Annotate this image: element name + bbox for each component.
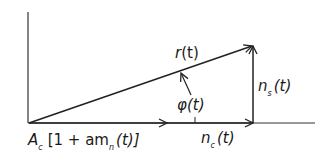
resultant-label: r(t): [175, 44, 199, 62]
signal-label: Ac[1 + amn(t)]: [27, 131, 140, 152]
phasor-diagram: r(t) φ(t) ns(t) nc(t) Ac[1 + amn(t)]: [0, 0, 325, 164]
angle-label: φ(t): [177, 96, 205, 114]
quadrature-noise-label: ns(t): [258, 77, 291, 98]
inphase-noise-label: nc(t): [201, 129, 235, 150]
resultant-arrow: [29, 46, 252, 123]
angle-pointer-arrow: [181, 73, 191, 95]
